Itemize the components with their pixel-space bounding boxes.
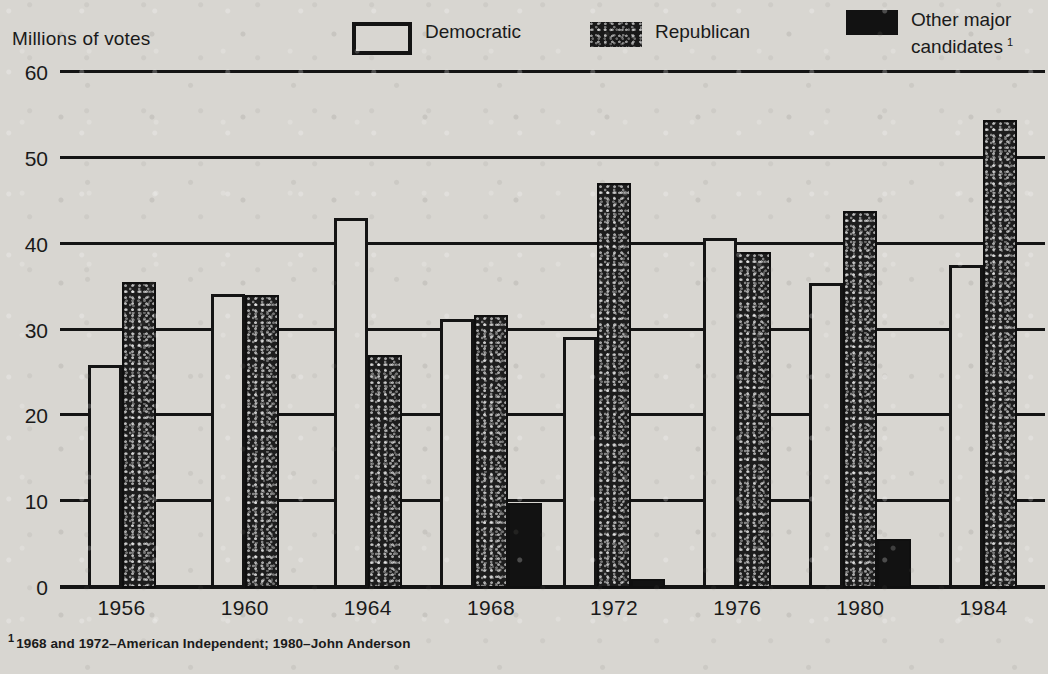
- bar-republican-1968[interactable]: [474, 315, 508, 588]
- gridline-40: [60, 242, 1045, 245]
- bar-democratic-1980[interactable]: [809, 283, 843, 588]
- bar-other-major-candidates-1972[interactable]: [631, 579, 665, 588]
- legend-item-democratic[interactable]: Democratic: [352, 20, 521, 55]
- chart-legend: Democratic Republican Other major candid…: [352, 6, 1040, 62]
- bar-republican-1980[interactable]: [843, 211, 877, 588]
- legend-swatch-other-icon: [846, 10, 898, 35]
- gridline-20: [60, 413, 1045, 416]
- bar-other-major-candidates-1980[interactable]: [877, 539, 911, 588]
- legend-swatch-republican-icon: [590, 22, 642, 47]
- y-axis-tick-label: 40: [0, 233, 48, 257]
- footnote-text: 1968 and 1972–American Independent; 1980…: [16, 636, 410, 651]
- legend-label-republican: Republican: [655, 20, 750, 43]
- bar-democratic-1956[interactable]: [88, 365, 122, 588]
- gridline-30: [60, 328, 1045, 331]
- x-axis-tick-label-1980: 1980: [836, 596, 884, 620]
- bar-other-major-candidates-1968[interactable]: [508, 503, 542, 588]
- gridline-60: [60, 70, 1045, 73]
- bar-democratic-1972[interactable]: [563, 337, 597, 588]
- legend-item-other-candidates[interactable]: Other major candidates1: [846, 8, 1013, 58]
- x-axis-tick-label-1968: 1968: [467, 596, 515, 620]
- bar-republican-1972[interactable]: [597, 183, 631, 588]
- plot-area: [60, 73, 1045, 588]
- gridline-50: [60, 156, 1045, 159]
- legend-label-other-text: Other major candidates: [911, 9, 1011, 57]
- bar-democratic-1968[interactable]: [440, 319, 474, 588]
- gridline-10: [60, 499, 1045, 502]
- y-axis-tick-label: 60: [0, 61, 48, 85]
- bar-republican-1984[interactable]: [983, 120, 1017, 588]
- bar-democratic-1964[interactable]: [334, 218, 368, 588]
- y-axis-tick-label: 50: [0, 147, 48, 171]
- bar-democratic-1960[interactable]: [211, 294, 245, 588]
- x-axis-tick-label-1972: 1972: [590, 596, 638, 620]
- legend-item-republican[interactable]: Republican: [590, 20, 750, 47]
- y-axis-tick-label: 10: [0, 490, 48, 514]
- y-axis-tick-label: 30: [0, 319, 48, 343]
- x-axis-tick-label-1956: 1956: [98, 596, 146, 620]
- y-axis-tick-label: 20: [0, 404, 48, 428]
- legend-label-other-candidates: Other major candidates1: [911, 8, 1013, 58]
- bar-democratic-1976[interactable]: [703, 238, 737, 588]
- x-axis-tick-label-1960: 1960: [221, 596, 269, 620]
- x-axis-tick-label-1976: 1976: [713, 596, 761, 620]
- chart-footnote: 11968 and 1972–American Independent; 198…: [8, 632, 411, 651]
- x-axis-tick-label-1984: 1984: [959, 596, 1007, 620]
- bar-democratic-1984[interactable]: [949, 265, 983, 588]
- bar-republican-1964[interactable]: [368, 355, 402, 588]
- footnote-marker: 1: [8, 632, 14, 644]
- bar-republican-1960[interactable]: [245, 295, 279, 588]
- y-axis-title: Millions of votes: [12, 28, 151, 50]
- vote-totals-bar-chart: Millions of votes Democratic Republican …: [0, 0, 1048, 674]
- legend-label-democratic: Democratic: [425, 20, 521, 43]
- bar-republican-1956[interactable]: [122, 282, 156, 588]
- y-axis-tick-label: 0: [0, 576, 48, 600]
- x-axis-tick-label-1964: 1964: [344, 596, 392, 620]
- bar-republican-1976[interactable]: [737, 252, 771, 588]
- legend-swatch-democratic-icon: [352, 22, 412, 55]
- legend-footnote-marker: 1: [1007, 36, 1013, 48]
